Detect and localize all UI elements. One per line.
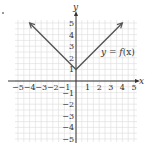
x-axis-label: x xyxy=(139,76,144,86)
axes xyxy=(8,11,140,143)
y-tick-label: −3 xyxy=(62,112,74,121)
y-tick-label: −2 xyxy=(62,100,74,109)
x-tick-label: −3 xyxy=(35,83,47,92)
y-tick-label: 4 xyxy=(69,31,74,40)
x-tick-label: −4 xyxy=(24,83,36,92)
y-axis-label: y xyxy=(72,2,79,12)
function-graph: −5−4−3−2−112345−5−4−3−2−112345 x y y = f… xyxy=(0,0,150,149)
function-label: y = f(x) xyxy=(100,47,135,57)
y-tick-label: −5 xyxy=(62,135,74,144)
x-tick-label: 5 xyxy=(131,83,136,92)
marker-dot xyxy=(2,12,4,14)
x-tick-label: 1 xyxy=(85,83,90,92)
x-tick-label: −5 xyxy=(12,83,24,92)
y-tick-label: 5 xyxy=(69,19,74,28)
y-tick-label: −1 xyxy=(62,89,74,98)
x-tick-label: 3 xyxy=(108,83,113,92)
x-tick-label: −2 xyxy=(47,83,59,92)
y-tick-label: −4 xyxy=(62,123,74,132)
x-tick-label: 2 xyxy=(97,83,102,92)
y-tick-label: 2 xyxy=(69,54,74,63)
y-tick-label: 3 xyxy=(69,42,74,51)
x-tick-label: 4 xyxy=(120,83,125,92)
